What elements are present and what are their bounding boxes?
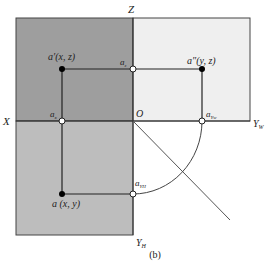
ayh-label: aYH	[135, 178, 146, 189]
origin-label: O	[136, 108, 143, 119]
h-plane	[16, 121, 133, 235]
z-axis-label: Z	[128, 3, 135, 15]
point-ayh	[130, 191, 136, 197]
point-a	[59, 191, 65, 197]
x-axis-label: X	[2, 115, 11, 127]
diagonal-45-line	[133, 121, 230, 220]
point-ax	[59, 118, 65, 124]
projection-diagram: Z X O YW YH a′(x, z) a″(y, z) a (x, y) a…	[0, 0, 271, 261]
point-az	[130, 66, 136, 72]
figure-caption: (b)	[149, 249, 161, 261]
point-a-double-prime	[199, 66, 205, 72]
a-double-prime-label: a″(y, z)	[187, 55, 216, 67]
a-prime-label: a′(x, z)	[48, 51, 76, 63]
yw-axis-label: YW	[253, 118, 265, 130]
point-a-prime	[59, 66, 65, 72]
a-label: a (x, y)	[52, 198, 81, 210]
yh-axis-label: YH	[136, 237, 147, 249]
point-ayw	[199, 118, 205, 124]
